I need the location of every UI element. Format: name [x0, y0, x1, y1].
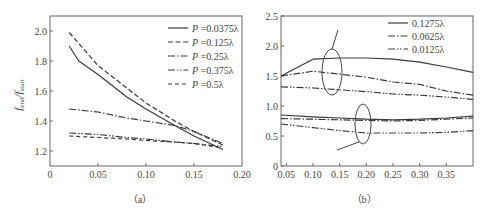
y-tick-label: 1.5 [266, 71, 279, 82]
y-tick-label: 1.2 [35, 146, 48, 157]
y-tick-label: 2.0 [35, 26, 48, 37]
chart-a-y-label: fend/fstart [12, 79, 26, 110]
series-line [69, 136, 223, 148]
legend-label: 0.1275λ [412, 18, 445, 29]
legend-label: P =0.125λ [191, 37, 234, 48]
figure: 1.21.41.61.82.0 00.050.100.150.20 P =0.0… [0, 0, 486, 214]
chart-b-series [281, 58, 473, 133]
x-tick-label: 0.25 [384, 169, 402, 180]
chart-a-legend: P =0.0375λP =0.125λP =0.25λP =0.375λP =0… [168, 23, 239, 90]
lower-group-ellipse [355, 104, 371, 144]
legend-label: P =0.0375λ [191, 23, 239, 34]
y-tick-label: 2.5 [266, 11, 279, 22]
x-tick-label: 0.10 [137, 169, 155, 180]
y-tick-label: 1.6 [35, 86, 48, 97]
legend-label: 0.0125λ [412, 44, 445, 55]
y-tick-label: 1.4 [35, 116, 48, 127]
legend-label: P =0.25λ [191, 51, 229, 62]
x-tick-label: 0.20 [233, 169, 251, 180]
x-tick-label: 0.15 [185, 169, 203, 180]
chart-a: 1.21.41.61.82.0 00.050.100.150.20 P =0.0… [12, 16, 251, 205]
x-tick-label: 0.20 [358, 169, 376, 180]
legend-label: P =0.5λ [191, 79, 224, 90]
x-tick-label: 0.05 [89, 169, 107, 180]
series-line [69, 133, 223, 147]
series-line [281, 71, 473, 95]
x-tick-label: 0 [48, 169, 53, 180]
chart-b: 00.51.01.52.02.5 0.050.100.150.200.250.3… [266, 11, 474, 206]
x-tick-label: 0.35 [438, 169, 456, 180]
legend-label: 0.0625λ [412, 31, 445, 42]
series-line [281, 58, 473, 76]
chart-b-caption: （b） [352, 194, 377, 205]
lower-group-pointer [337, 142, 359, 150]
upper-group-pointer [332, 30, 338, 49]
chart-a-caption: （a） [128, 194, 152, 205]
y-tick-label: 0.5 [266, 131, 279, 142]
y-tick-label: 1.8 [35, 56, 48, 67]
x-tick-label: 0.10 [304, 169, 322, 180]
x-tick-label: 0.05 [278, 169, 296, 180]
chart-b-legend: 0.1275λ0.0625λ0.0125λ [388, 18, 445, 55]
x-tick-label: 0.30 [411, 169, 429, 180]
x-tick-label: 0.15 [331, 169, 349, 180]
y-tick-label: 2.0 [266, 41, 279, 52]
series-line [281, 124, 473, 133]
legend-label: P =0.375λ [191, 65, 234, 76]
series-line [281, 87, 473, 100]
y-tick-label: 1.0 [266, 101, 279, 112]
